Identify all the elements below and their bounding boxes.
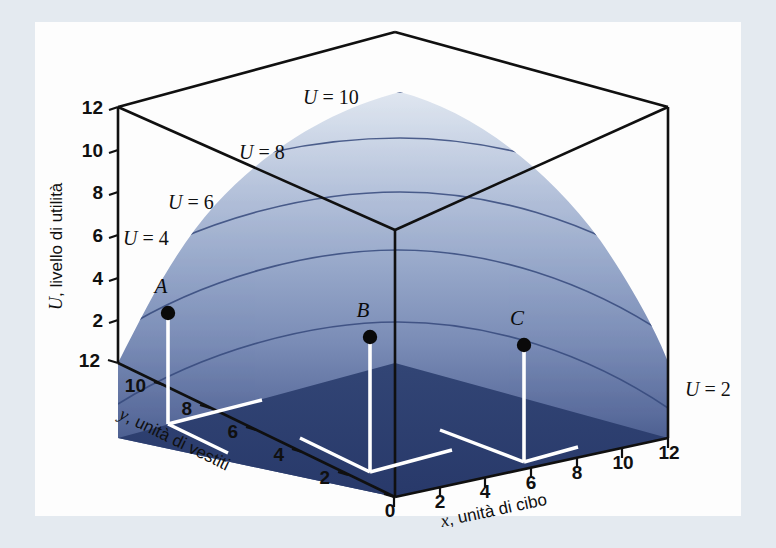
data-point-a	[161, 306, 175, 320]
x-tick-12: 12	[658, 442, 679, 463]
z-axis-title-var: U	[46, 296, 66, 310]
x-axis-title-rest: , unità di cibo	[447, 490, 549, 529]
contour-label-u8: U= 8	[239, 141, 285, 163]
z-tick-12: 12	[82, 97, 103, 118]
contour-label-u10: U= 10	[303, 86, 359, 108]
z-tick-4: 4	[92, 268, 103, 289]
x-tick-8: 8	[572, 462, 583, 483]
svg-text:x, unità di cibo: x, unità di cibo	[438, 489, 549, 531]
y-tick-12: 12	[79, 350, 100, 371]
box-top-right-edge	[395, 32, 668, 107]
data-point-b	[363, 330, 377, 344]
x-tick-2: 2	[435, 491, 446, 512]
y-tick-6: 6	[227, 421, 238, 442]
z-tick-10: 10	[82, 140, 103, 161]
z-axis-ticks	[109, 107, 118, 323]
z-axis-title: U, livello di utilità	[46, 182, 66, 310]
z-tick-2: 2	[92, 310, 103, 331]
data-point-c	[517, 338, 531, 352]
data-point-label-c: C	[510, 306, 525, 330]
contour-label-u2: U= 2	[685, 378, 731, 400]
x-axis-title: x, unità di cibo	[438, 489, 549, 531]
x-tick-4: 4	[480, 481, 491, 502]
figure-canvas: A B C 12 10 8 6 4 2 U, livello di utilit…	[0, 0, 776, 548]
contour-label-u6: U= 6	[168, 191, 214, 213]
x-tick-10: 10	[612, 452, 633, 473]
contour-label-u4: U= 4	[123, 227, 169, 249]
figure-root: A B C 12 10 8 6 4 2 U, livello di utilit…	[0, 0, 776, 548]
y-tick-10: 10	[125, 375, 146, 396]
z-axis-title-rest: , livello di utilità	[47, 182, 66, 297]
y-tick-2: 2	[319, 467, 330, 488]
data-point-label-b: B	[357, 298, 370, 322]
y-tick-8: 8	[181, 398, 192, 419]
z-tick-8: 8	[92, 182, 103, 203]
x-tick-6: 6	[526, 472, 537, 493]
z-axis-tick-labels: 12 10 8 6 4 2	[82, 97, 104, 331]
z-tick-6: 6	[92, 225, 103, 246]
svg-text:U, livello di utilità: U, livello di utilità	[46, 182, 66, 310]
y-tick-4: 4	[273, 444, 284, 465]
data-point-label-a: A	[153, 274, 168, 298]
